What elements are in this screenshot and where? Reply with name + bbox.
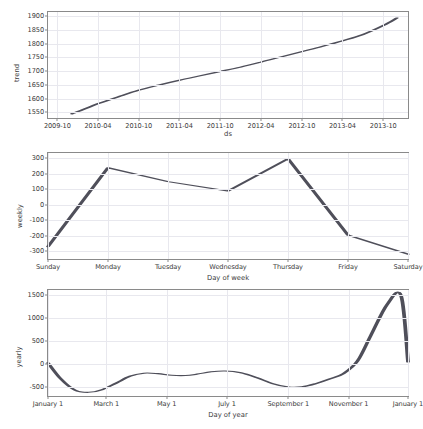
- trend-x-tick-label: 2013-10: [370, 122, 397, 130]
- x-tick-mark: [348, 396, 349, 399]
- gridline-vertical: [408, 290, 409, 396]
- gridline-vertical: [106, 290, 107, 396]
- yearly-x-tick-label: May 1: [157, 400, 176, 408]
- yearly-x-tick-label: March 1: [93, 400, 119, 408]
- y-tick-mark: [45, 112, 48, 113]
- weekly-x-tick-label: Friday: [338, 263, 357, 271]
- weekly-y-tick-label: 200: [32, 170, 44, 178]
- gridline-vertical: [108, 153, 109, 259]
- weekly-x-tick-label: Thursday: [273, 263, 303, 271]
- trend-x-tick-label: 2012-10: [288, 122, 315, 130]
- gridline-horizontal: [48, 364, 408, 365]
- gridline-horizontal: [48, 16, 408, 17]
- x-tick-mark: [301, 118, 302, 121]
- yearly-x-tick-label: November 1: [329, 400, 369, 408]
- weekly-x-tick-label: Tuesday: [155, 263, 181, 271]
- trend-y-tick-label: 1850: [28, 26, 44, 34]
- gridline-horizontal: [48, 112, 408, 113]
- weekly-y-tick-label: -200: [29, 232, 44, 240]
- weekly-x-tick-label: Wednesday: [209, 263, 246, 271]
- gridline-horizontal: [48, 318, 408, 319]
- gridline-vertical: [139, 12, 140, 118]
- yearly-y-tick-label: 0: [40, 360, 44, 368]
- gridline-vertical: [168, 153, 169, 259]
- x-tick-mark: [408, 396, 409, 399]
- trend-plot-area: 155016001650170017501800185019002009-102…: [47, 11, 409, 119]
- trend-y-tick-label: 1650: [28, 81, 44, 89]
- x-tick-mark: [48, 396, 49, 399]
- trend-y-tick-label: 1600: [28, 95, 44, 103]
- x-tick-mark: [288, 396, 289, 399]
- yearly-y-tick-label: -500: [29, 383, 44, 391]
- gridline-horizontal: [48, 387, 408, 388]
- x-tick-mark: [138, 118, 139, 121]
- yearly-y-tick-label: 500: [32, 337, 44, 345]
- x-tick-mark: [179, 118, 180, 121]
- trend-y-tick-label: 1750: [28, 53, 44, 61]
- yearly-x-tick-label: September 1: [268, 400, 310, 408]
- gridline-vertical: [98, 12, 99, 118]
- trend-x-tick-label: 2011-10: [207, 122, 234, 130]
- y-tick-mark: [45, 16, 48, 17]
- gridline-vertical: [288, 153, 289, 259]
- gridline-horizontal: [48, 295, 408, 296]
- x-tick-mark: [383, 118, 384, 121]
- y-tick-mark: [45, 29, 48, 30]
- gridline-vertical: [348, 153, 349, 259]
- weekly-x-tick-label: Monday: [95, 263, 120, 271]
- x-tick-mark: [348, 259, 349, 262]
- x-tick-mark: [261, 118, 262, 121]
- yearly-x-tick-label: January 1: [33, 400, 63, 408]
- y-tick-mark: [45, 98, 48, 99]
- yearly-y-tick-label: 1000: [28, 314, 44, 322]
- trend-x-tick-label: 2009-10: [44, 122, 71, 130]
- gridline-horizontal: [48, 99, 408, 100]
- weekly-y-tick-label: 100: [32, 185, 44, 193]
- x-tick-mark: [168, 259, 169, 262]
- gridline-horizontal: [48, 85, 408, 86]
- weekly-plot-area: -300-200-1000100200300SundayMondayTuesda…: [47, 152, 409, 260]
- yearly-x-axis-label: Day of year: [47, 411, 409, 419]
- y-tick-mark: [45, 84, 48, 85]
- weekly-y-tick-label: 300: [32, 154, 44, 162]
- weekly-x-tick-label: Saturday: [394, 263, 423, 271]
- x-tick-mark: [166, 396, 167, 399]
- gridline-vertical: [261, 12, 262, 118]
- x-tick-mark: [97, 118, 98, 121]
- gridline-vertical: [342, 12, 343, 118]
- yearly-panel: yearly -500050010001500January 1March 1M…: [0, 285, 421, 429]
- x-tick-mark: [227, 396, 228, 399]
- gridline-vertical: [383, 12, 384, 118]
- gridline-vertical: [220, 12, 221, 118]
- x-tick-mark: [57, 118, 58, 121]
- gridline-vertical: [179, 12, 180, 118]
- trend-x-axis-label: ds: [47, 130, 409, 138]
- gridline-vertical: [48, 153, 49, 259]
- gridline-horizontal: [48, 341, 408, 342]
- trend-y-axis-label: trend: [13, 63, 21, 81]
- x-tick-mark: [342, 118, 343, 121]
- gridline-vertical: [349, 290, 350, 396]
- trend-x-tick-label: 2010-04: [85, 122, 112, 130]
- trend-x-tick-label: 2010-10: [125, 122, 152, 130]
- gridline-horizontal: [48, 57, 408, 58]
- x-tick-mark: [228, 259, 229, 262]
- x-tick-mark: [288, 259, 289, 262]
- yearly-x-tick-label: July 1: [218, 400, 236, 408]
- trend-panel: trend 1550160016501700175018001850190020…: [0, 0, 421, 145]
- trend-line: [48, 12, 408, 118]
- weekly-y-tick-label: 0: [40, 201, 44, 209]
- gridline-horizontal: [48, 44, 408, 45]
- yearly-y-axis-label: yearly: [15, 346, 23, 367]
- gridline-vertical: [227, 290, 228, 396]
- weekly-y-tick-label: -300: [29, 247, 44, 255]
- yearly-line: [48, 290, 408, 396]
- y-tick-mark: [45, 71, 48, 72]
- x-tick-mark: [106, 396, 107, 399]
- x-tick-mark: [220, 118, 221, 121]
- weekly-panel: weekly -300-200-1000100200300SundayMonda…: [0, 144, 421, 288]
- gridline-horizontal: [48, 71, 408, 72]
- yearly-plot-area: -500050010001500January 1March 1May 1Jul…: [47, 289, 409, 397]
- trend-x-tick-label: 2012-04: [248, 122, 275, 130]
